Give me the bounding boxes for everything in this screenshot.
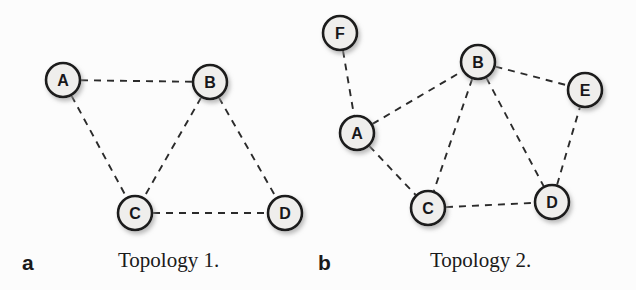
edge-A-C [72, 96, 127, 197]
node-C[interactable]: C [411, 191, 445, 225]
node-label-D: D [279, 205, 291, 222]
node-label-C: C [422, 200, 434, 217]
node-label-B: B [204, 74, 216, 91]
node-D[interactable]: D [535, 185, 569, 219]
node-label-D: D [546, 194, 558, 211]
node-A[interactable]: A [340, 116, 374, 150]
edge-A-B [81, 80, 192, 82]
edges-layer [72, 51, 580, 213]
edge-A-B [373, 71, 463, 124]
panel-letter-a: a [22, 252, 34, 273]
node-D[interactable]: D [268, 196, 302, 230]
node-label-C: C [129, 205, 141, 222]
edge-B-C [144, 98, 201, 198]
node-B[interactable]: B [461, 45, 495, 79]
node-label-F: F [335, 25, 345, 42]
edge-B-C [434, 79, 472, 191]
edge-D-E [557, 107, 580, 184]
node-label-A: A [57, 72, 69, 89]
edge-A-C [369, 146, 415, 195]
topology-figure: ABCDFABECD a Topology 1. b Topology 2. [0, 0, 636, 290]
panel-caption-topology-1: Topology 1. [118, 250, 219, 271]
node-label-B: B [472, 54, 484, 71]
node-B[interactable]: B [193, 65, 227, 99]
node-C[interactable]: C [118, 196, 152, 230]
panel-caption-topology-2: Topology 2. [430, 250, 531, 271]
nodes-layer: ABCDFABECD [46, 16, 602, 230]
graph-canvas: ABCDFABECD [0, 0, 636, 290]
node-A[interactable]: A [46, 63, 80, 97]
edge-B-D [219, 98, 276, 198]
node-E[interactable]: E [568, 73, 602, 107]
panel-letter-b: b [318, 252, 331, 273]
edge-B-E [495, 67, 567, 86]
edge-F-A [343, 51, 354, 116]
edge-C-D [446, 203, 534, 207]
node-label-A: A [351, 125, 363, 142]
edge-B-D [486, 78, 543, 186]
node-label-E: E [580, 82, 591, 99]
node-F[interactable]: F [323, 16, 357, 50]
